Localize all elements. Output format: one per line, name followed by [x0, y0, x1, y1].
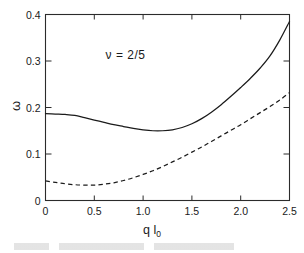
x-tick-label: 0	[43, 205, 49, 217]
figure-container: ω 00.51.01.52.02.5 00.10.20.30.4 ν = 2/5…	[0, 0, 304, 253]
plot-annotations: ν = 2/5	[106, 48, 146, 62]
x-tick-label: 1.5	[185, 205, 200, 217]
x-axis-title: q l0	[143, 223, 161, 239]
y-tick-label: 0.2	[26, 102, 41, 114]
x-axis-ticks	[94, 15, 240, 201]
x-axis-tick-labels: 00.51.01.52.02.5	[43, 205, 297, 217]
annotation-filling-factor: ν = 2/5	[106, 48, 146, 62]
y-tick-label: 0.4	[26, 9, 41, 21]
y-tick-label: 0	[35, 195, 41, 207]
x-tick-label: 2.0	[233, 205, 248, 217]
y-tick-label: 0.1	[26, 148, 41, 160]
axis-box	[46, 15, 290, 201]
x-tick-label: 0.5	[87, 205, 102, 217]
plot-frame	[46, 15, 290, 201]
chart-canvas: 00.51.01.52.02.5 00.10.20.30.4 ν = 2/5 q…	[0, 0, 304, 253]
curve-lower-mode-dashed	[46, 93, 290, 186]
y-axis-tick-labels: 00.10.20.30.4	[26, 9, 41, 207]
caption-placeholder	[14, 243, 264, 250]
x-tick-label: 2.5	[282, 205, 297, 217]
data-curves	[46, 21, 290, 185]
y-tick-label: 0.3	[26, 55, 41, 67]
curve-upper-mode-solid	[46, 21, 290, 130]
x-tick-label: 1.0	[136, 205, 151, 217]
